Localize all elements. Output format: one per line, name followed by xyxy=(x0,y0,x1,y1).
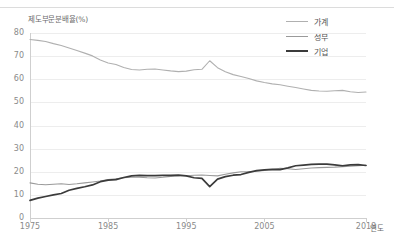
y-tick-label: 10 xyxy=(0,190,24,199)
x-tick-label: 1985 xyxy=(98,222,118,231)
y-tick-label: 50 xyxy=(0,97,24,106)
y-axis-title: 제도부문분배율(%) xyxy=(28,13,88,24)
series-lines xyxy=(30,33,366,218)
x-axis-line xyxy=(30,218,366,219)
series-line xyxy=(30,165,366,184)
x-tick-label: 1975 xyxy=(20,222,40,231)
y-tick-label: 70 xyxy=(0,51,24,60)
top-divider xyxy=(0,7,394,8)
plot-area xyxy=(30,33,366,218)
y-tick-label: 20 xyxy=(0,167,24,176)
y-tick-label: 60 xyxy=(0,74,24,83)
y-tick-label: 30 xyxy=(0,144,24,153)
series-line xyxy=(30,164,366,200)
legend-swatch-household xyxy=(286,21,308,22)
y-tick-label: 80 xyxy=(0,28,24,37)
y-tick-label: 0 xyxy=(0,213,24,222)
legend-item-household: 가계 xyxy=(286,16,328,26)
legend-label-household: 가계 xyxy=(314,16,328,27)
x-tick-label: 1995 xyxy=(176,222,196,231)
chart-figure: 제도부문분배율(%) 가계 정부 기업 01020304050607080 19… xyxy=(0,0,394,252)
y-tick-label: 40 xyxy=(0,121,24,130)
x-tick-label: 2005 xyxy=(254,222,274,231)
series-line xyxy=(30,39,366,92)
x-axis-title: 연도 xyxy=(370,222,384,233)
